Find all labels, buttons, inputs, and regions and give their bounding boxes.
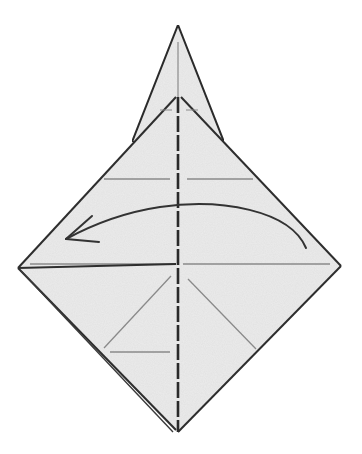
origami-diagram: Origami folding step: diamond-shaped pap… <box>0 0 362 454</box>
diagram-canvas <box>0 0 362 454</box>
